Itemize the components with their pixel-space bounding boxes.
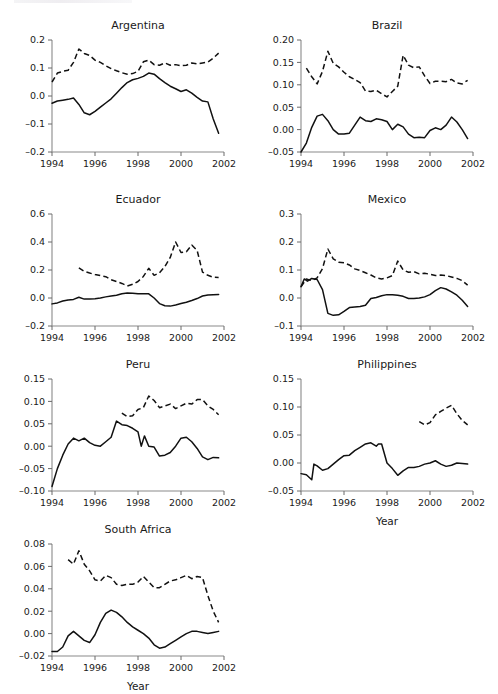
series-dashed [68, 551, 219, 623]
x-tick-label: 2002 [212, 158, 236, 169]
panel-argentina: Argentina–0.2–0.10.00.10.219941996199820… [0, 12, 249, 180]
series-dashed [306, 51, 467, 97]
x-tick-label: 2002 [212, 662, 236, 673]
panel-brazil: Brazil–0.050.000.050.100.150.20199419961… [249, 12, 498, 180]
x-tick-label: 1996 [83, 158, 107, 169]
x-tick-label: 1998 [126, 662, 150, 673]
chart-svg: South Africa–0.020.000.020.040.060.08199… [0, 516, 249, 694]
x-tick-label: 2000 [418, 332, 442, 343]
x-axis-label: Year [375, 515, 399, 527]
series-solid [52, 73, 219, 133]
series-dashed [419, 405, 467, 425]
panel-mexico: Mexico–0.10.00.10.20.3199419961998200020… [249, 186, 498, 354]
panel-title: Argentina [111, 19, 165, 32]
y-tick-label: –0.05 [19, 463, 45, 474]
x-tick-label: 1996 [332, 497, 356, 508]
series-solid [52, 610, 219, 651]
x-tick-label: 1996 [83, 332, 107, 343]
y-tick-label: 0.05 [273, 102, 294, 113]
y-tick-label: 0.20 [273, 34, 294, 45]
x-tick-label: 2000 [418, 497, 442, 508]
x-tick-label: 1998 [126, 332, 150, 343]
chart-svg: Argentina–0.2–0.10.00.10.219941996199820… [0, 12, 249, 180]
x-tick-label: 1998 [375, 497, 399, 508]
y-tick-label: –0.10 [19, 485, 45, 496]
y-tick-label: 0.15 [273, 373, 294, 384]
y-tick-label: 0.06 [24, 561, 45, 572]
y-tick-label: 0.1 [279, 264, 294, 275]
y-tick-label: –0.2 [25, 146, 45, 157]
y-tick-label: 0.0 [279, 292, 294, 303]
y-tick-label: 0.04 [24, 583, 45, 594]
y-tick-label: 0.08 [24, 538, 45, 549]
y-tick-label: 0.2 [30, 34, 45, 45]
series-dashed [52, 49, 219, 82]
top-edge-artifact [14, 0, 132, 3]
y-tick-label: –0.05 [268, 146, 294, 157]
y-tick-label: 0.10 [273, 79, 294, 90]
y-tick-label: 0.2 [279, 236, 294, 247]
y-tick-label: 0.10 [24, 396, 45, 407]
y-tick-label: –0.05 [268, 485, 294, 496]
x-tick-label: 2002 [461, 158, 485, 169]
y-tick-label: –0.2 [25, 320, 45, 331]
panel-peru: Peru–0.10–0.050.000.050.100.151994199619… [0, 351, 249, 519]
panel-south-africa: South Africa–0.020.000.020.040.060.08199… [0, 516, 249, 694]
x-tick-label: 2000 [169, 332, 193, 343]
series-dashed [79, 242, 219, 286]
chart-svg: Mexico–0.10.00.10.20.3199419961998200020… [249, 186, 498, 354]
x-tick-label: 2002 [212, 497, 236, 508]
chart-svg: Ecuador–0.20.00.20.40.619941996199820002… [0, 186, 249, 354]
panel-title: Mexico [368, 193, 407, 206]
y-tick-label: –0.1 [274, 320, 294, 331]
panel-title: Peru [126, 358, 151, 371]
x-tick-label: 2002 [461, 497, 485, 508]
x-tick-label: 1994 [289, 332, 313, 343]
y-tick-label: 0.15 [24, 373, 45, 384]
series-solid [301, 114, 468, 152]
y-tick-label: 0.00 [273, 124, 294, 135]
y-tick-label: –0.02 [19, 650, 45, 661]
x-tick-label: 1998 [375, 332, 399, 343]
y-tick-label: 0.10 [273, 401, 294, 412]
axis-lines [52, 214, 224, 326]
x-tick-label: 2000 [169, 158, 193, 169]
x-tick-label: 1994 [40, 662, 64, 673]
panel-philippines: Philippines–0.050.000.050.100.1519941996… [249, 351, 498, 541]
axis-lines [52, 544, 224, 656]
x-tick-label: 1994 [40, 158, 64, 169]
y-tick-label: 0.05 [24, 418, 45, 429]
x-tick-label: 2002 [461, 332, 485, 343]
chart-svg: Philippines–0.050.000.050.100.1519941996… [249, 351, 498, 541]
y-tick-label: 0.00 [24, 628, 45, 639]
panel-title: Ecuador [116, 193, 161, 206]
x-tick-label: 1996 [83, 497, 107, 508]
x-tick-label: 1994 [40, 497, 64, 508]
y-tick-label: 0.00 [273, 457, 294, 468]
x-tick-label: 2000 [418, 158, 442, 169]
panel-ecuador: Ecuador–0.20.00.20.40.619941996199820002… [0, 186, 249, 354]
y-tick-label: 0.05 [273, 429, 294, 440]
y-tick-label: 0.4 [30, 236, 45, 247]
x-tick-label: 1996 [332, 158, 356, 169]
chart-svg: Brazil–0.050.000.050.100.150.20199419961… [249, 12, 498, 180]
y-tick-label: 0.00 [24, 441, 45, 452]
x-axis-label: Year [126, 680, 150, 692]
series-solid [301, 443, 468, 480]
y-tick-label: 0.1 [30, 62, 45, 73]
panel-title: South Africa [105, 523, 172, 536]
x-tick-label: 1996 [332, 332, 356, 343]
x-tick-label: 2002 [212, 332, 236, 343]
x-tick-label: 1998 [126, 158, 150, 169]
series-solid [52, 421, 219, 486]
series-dashed [301, 249, 468, 287]
x-tick-label: 1994 [40, 332, 64, 343]
x-tick-label: 2000 [169, 662, 193, 673]
series-solid [301, 278, 468, 315]
y-tick-label: –0.1 [25, 118, 45, 129]
series-solid [52, 293, 219, 306]
x-tick-label: 2000 [169, 497, 193, 508]
y-tick-label: 0.3 [279, 208, 294, 219]
y-tick-label: 0.15 [273, 57, 294, 68]
axis-lines [52, 40, 224, 152]
